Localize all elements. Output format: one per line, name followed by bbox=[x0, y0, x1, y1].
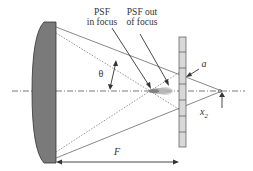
ray-top-solid bbox=[56, 27, 222, 91]
theta-arrowhead-bottom bbox=[108, 84, 113, 90]
label-x2: x2 bbox=[199, 106, 208, 120]
psf-out-focus-arrowhead bbox=[164, 79, 169, 86]
detector-array bbox=[179, 37, 186, 147]
optical-diagram: PSF in focus PSF out of focus θ a x2 F bbox=[0, 0, 253, 171]
ray-bottom-dotted bbox=[56, 91, 150, 152]
lens bbox=[32, 22, 56, 163]
ray-top-dotted bbox=[56, 33, 150, 91]
psf-blob bbox=[148, 87, 173, 95]
psf-out-focus-pointer bbox=[140, 34, 168, 83]
psf-in-focus-pointer bbox=[112, 28, 150, 87]
psf-in-focus-arrowhead bbox=[146, 82, 151, 89]
label-psf-out-focus-1: PSF out bbox=[127, 7, 158, 17]
label-a: a bbox=[202, 58, 207, 69]
label-psf-in-focus-1: PSF bbox=[94, 7, 110, 17]
label-theta: θ bbox=[99, 68, 104, 79]
a-arrowhead bbox=[186, 72, 192, 77]
f-arrowhead-right bbox=[173, 160, 179, 165]
label-focal-length: F bbox=[113, 146, 121, 157]
f-arrowhead-left bbox=[56, 160, 62, 165]
label-psf-in-focus-2: in focus bbox=[87, 17, 118, 27]
theta-arrowhead-top bbox=[113, 60, 118, 66]
ray-bottom-solid bbox=[56, 91, 222, 158]
label-psf-out-focus-2: of focus bbox=[127, 17, 158, 27]
